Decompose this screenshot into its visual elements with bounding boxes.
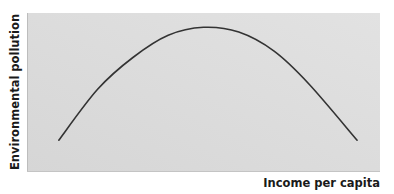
y-axis-label: Environmental pollution [8,14,22,170]
plot-area [27,13,380,172]
chart: Environmental pollution Income per capit… [0,0,394,194]
x-axis-label: Income per capita [263,176,380,190]
